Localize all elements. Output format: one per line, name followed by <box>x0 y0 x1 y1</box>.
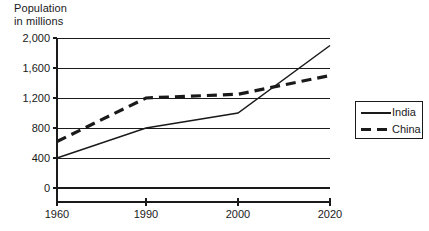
series-line-india <box>57 46 330 159</box>
figure-caption <box>0 221 429 230</box>
x-tick-label-1990: 1990 <box>123 209 169 220</box>
legend-swatch-china <box>361 128 391 131</box>
x-tick-label-2000: 2000 <box>215 209 261 220</box>
legend-swatch-india <box>361 112 391 114</box>
population-line-chart: Population in millions India China 04008… <box>0 0 429 231</box>
legend-item-china: China <box>356 121 422 138</box>
legend-label-china: China <box>392 123 421 135</box>
x-tick-label-1960: 1960 <box>34 209 80 220</box>
y-tick-label-800: 800 <box>10 123 50 134</box>
y-tick-label-400: 400 <box>10 153 50 164</box>
legend-label-india: India <box>392 106 416 118</box>
x-tick-label-2020: 2020 <box>307 209 353 220</box>
chart-legend: India China <box>355 101 423 139</box>
y-axis-title: Population in millions <box>14 2 67 28</box>
series-line-china <box>57 76 330 142</box>
y-tick-label-1600: 1,600 <box>10 63 50 74</box>
y-tick-label-2000: 2,000 <box>10 33 50 44</box>
y-tick-label-1200: 1,200 <box>10 93 50 104</box>
y-tick-label-0: 0 <box>10 183 50 194</box>
legend-item-india: India <box>356 104 422 121</box>
